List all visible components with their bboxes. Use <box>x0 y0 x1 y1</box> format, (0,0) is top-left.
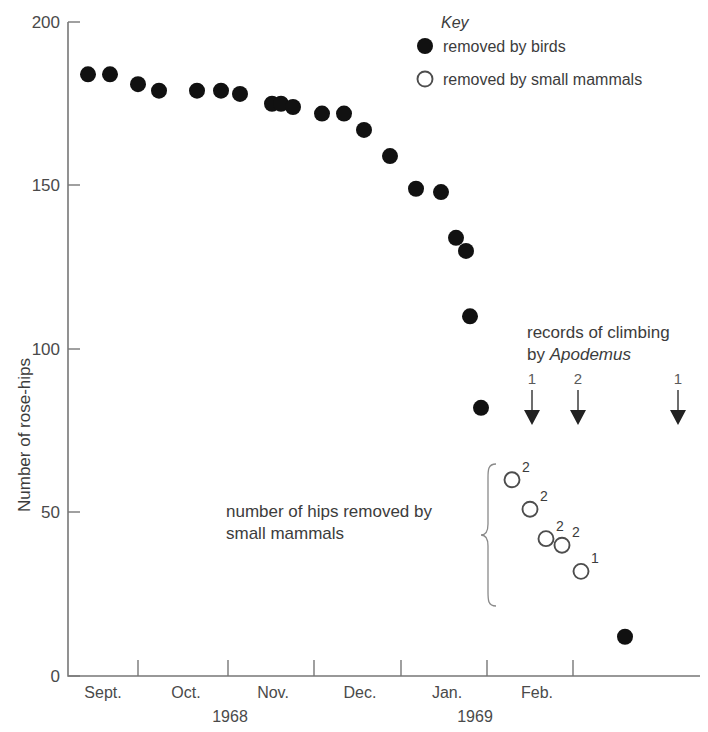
legend-label-mammals: removed by small mammals <box>443 71 642 88</box>
x-label-feb: Feb. <box>521 684 553 701</box>
x-label-dec: Dec. <box>344 684 377 701</box>
climbing-annotation: records of climbing by Apodemus 1 2 1 <box>524 323 686 425</box>
data-point-birds <box>189 83 205 99</box>
data-point-small-mammals <box>555 538 570 553</box>
climbing-annotation-species: Apodemus <box>549 345 632 364</box>
climbing-annotation-line1: records of climbing <box>527 323 670 342</box>
legend-label-birds: removed by birds <box>443 38 566 55</box>
y-tick-label-0: 0 <box>51 667 60 686</box>
data-point-birds <box>213 83 229 99</box>
data-point-birds <box>462 308 478 324</box>
y-tick-label-150: 150 <box>32 176 60 195</box>
legend: Key removed by birds removed by small ma… <box>417 14 642 88</box>
x-year-1968: 1968 <box>212 708 248 725</box>
climbing-arrow-3-label: 1 <box>674 370 682 387</box>
data-point-birds <box>448 230 464 246</box>
data-point-superscript-label: 2 <box>522 459 530 475</box>
axis-group: 200 150 100 50 0 Number of rose-hips Sep… <box>15 13 700 725</box>
legend-title: Key <box>441 14 470 31</box>
data-point-birds <box>285 99 301 115</box>
climbing-arrow-3: 1 <box>670 370 686 425</box>
brace-annotation-line2: small mammals <box>226 524 344 543</box>
small-mammals-annotation: number of hips removed by small mammals <box>226 464 496 606</box>
data-point-birds <box>314 106 330 122</box>
data-point-superscript-label: 2 <box>556 518 564 534</box>
x-label-oct: Oct. <box>171 684 200 701</box>
curly-brace-icon <box>481 464 496 606</box>
data-point-birds <box>408 181 424 197</box>
climbing-annotation-line2: by Apodemus <box>527 345 631 364</box>
climbing-arrow-1-head <box>524 410 540 425</box>
data-point-birds <box>356 122 372 138</box>
data-point-birds <box>433 184 449 200</box>
x-label-jan: Jan. <box>432 684 462 701</box>
data-point-superscript-label: 2 <box>572 524 580 540</box>
series-removed-by-small-mammals: 22221 <box>505 459 600 579</box>
data-point-small-mammals <box>523 502 538 517</box>
data-point-birds <box>80 66 96 82</box>
x-label-sept: Sept. <box>84 684 121 701</box>
y-tick-label-200: 200 <box>32 13 60 32</box>
climbing-annotation-by: by <box>527 345 550 364</box>
y-tick-label-50: 50 <box>41 503 60 522</box>
climbing-arrow-2: 2 <box>570 370 586 425</box>
rose-hips-scatter-figure: 200 150 100 50 0 Number of rose-hips Sep… <box>0 0 708 732</box>
y-axis-title: Number of rose-hips <box>15 358 34 512</box>
legend-open-circle-icon <box>418 72 433 87</box>
data-point-birds <box>130 76 146 92</box>
x-year-1969: 1969 <box>457 708 493 725</box>
data-point-small-mammals <box>574 564 589 579</box>
data-point-superscript-label: 2 <box>540 488 548 504</box>
brace-annotation-line1: number of hips removed by <box>226 502 432 521</box>
data-point-birds <box>102 66 118 82</box>
climbing-arrow-1-label: 1 <box>528 370 536 387</box>
data-point-small-mammals <box>505 472 520 487</box>
x-label-nov: Nov. <box>257 684 289 701</box>
legend-filled-circle-icon <box>417 38 433 54</box>
data-point-superscript-label: 1 <box>591 550 599 566</box>
data-point-birds <box>151 83 167 99</box>
data-point-birds <box>458 243 474 259</box>
climbing-arrow-2-head <box>570 410 586 425</box>
climbing-arrow-1: 1 <box>524 370 540 425</box>
climbing-arrow-3-head <box>670 410 686 425</box>
data-point-birds <box>473 400 489 416</box>
plot-canvas: 200 150 100 50 0 Number of rose-hips Sep… <box>0 0 708 732</box>
data-point-birds <box>617 629 633 645</box>
climbing-arrow-2-label: 2 <box>574 370 582 387</box>
data-point-birds <box>232 86 248 102</box>
data-point-birds <box>382 148 398 164</box>
y-tick-label-100: 100 <box>32 340 60 359</box>
data-point-small-mammals <box>539 531 554 546</box>
data-point-birds <box>336 106 352 122</box>
